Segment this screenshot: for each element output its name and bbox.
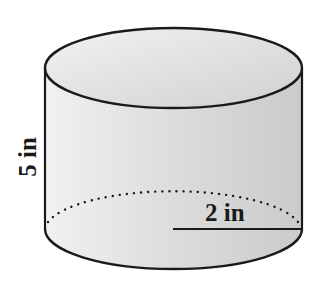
cylinder-top-face: [45, 28, 302, 108]
radius-label: 2 in: [205, 199, 245, 226]
cylinder-figure: 2 in 5 in: [0, 0, 327, 287]
cylinder-diagram: 2 in 5 in: [0, 0, 327, 287]
height-label: 5 in: [14, 137, 41, 177]
